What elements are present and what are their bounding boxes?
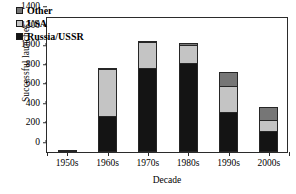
bar-segment-russia-ussr <box>179 63 198 152</box>
y-axis-tick: 200 <box>26 118 47 128</box>
y-axis-tick: 800 <box>26 60 47 70</box>
bar-segment-russia-ussr <box>219 112 238 152</box>
x-axis-tick-mark <box>229 152 230 156</box>
x-axis-tick-mark <box>108 152 109 156</box>
x-axis-tick-mark <box>269 152 270 156</box>
legend-item-russia-ussr: Russia/USSR <box>16 30 84 43</box>
bar-stack <box>138 41 157 152</box>
y-axis-tick: 600 <box>26 79 47 89</box>
legend-item-other: Other <box>16 4 84 17</box>
bar-segment-usa <box>138 42 157 69</box>
x-axis-tick-label: 1960s <box>96 158 119 168</box>
x-axis-edge-tick <box>289 152 290 156</box>
legend-label: Other <box>27 6 53 16</box>
bar-segment-other <box>219 72 238 87</box>
x-axis-edge-tick <box>47 152 48 156</box>
bar-segment-russia-ussr <box>259 131 278 152</box>
y-axis-tick-label: 600 <box>26 79 43 89</box>
legend-swatch-icon <box>16 7 23 14</box>
legend-swatch-icon <box>16 20 23 27</box>
legend-item-usa: USA <box>16 17 84 30</box>
x-axis-tick-label: 1970s <box>136 158 159 168</box>
x-axis-tick-label: 1990s <box>217 158 240 168</box>
x-axis-tick-mark <box>188 152 189 156</box>
bar-segment-usa <box>179 45 198 64</box>
x-axis-tick-label: 2000s <box>257 158 280 168</box>
y-axis-tick-label: 0 <box>35 138 43 148</box>
x-axis-tick-label: 1950s <box>56 158 79 168</box>
bar-stack <box>98 68 117 153</box>
legend-swatch-icon <box>16 33 23 40</box>
bar-stack <box>259 107 278 152</box>
y-axis-tick: 0 <box>35 138 47 148</box>
chart-legend: OtherUSARussia/USSR <box>16 4 84 43</box>
stacked-bar-chart: Successful launches 02004006008001000120… <box>0 0 296 194</box>
legend-label: USA <box>27 19 47 29</box>
x-axis-title: Decade <box>46 175 288 185</box>
x-axis-tick-mark <box>67 152 68 156</box>
legend-label: Russia/USSR <box>27 32 84 42</box>
x-axis-tick-mark <box>148 152 149 156</box>
x-axis-tick-label: 1980s <box>177 158 200 168</box>
y-axis-tick-label: 800 <box>26 60 43 70</box>
bar-stack <box>219 72 238 152</box>
bar-segment-russia-ussr <box>98 116 117 152</box>
bar-stack <box>179 43 198 152</box>
y-axis-tick-label: 400 <box>26 99 43 109</box>
bar-segment-usa <box>98 69 117 118</box>
y-axis-tick-label: 200 <box>26 118 43 128</box>
y-axis-tick: 400 <box>26 99 47 109</box>
bar-segment-usa <box>219 86 238 113</box>
bar-segment-russia-ussr <box>138 68 157 152</box>
